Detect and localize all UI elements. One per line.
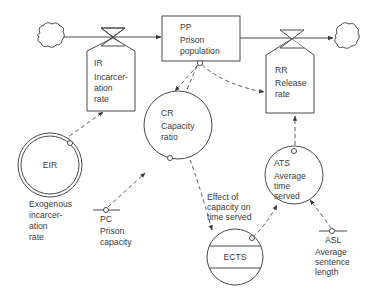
level-pp-label-2: population [180, 46, 220, 56]
rr-valve-icon [280, 30, 304, 48]
link-pp-to-cr [175, 65, 198, 91]
link-eir-to-ir [64, 112, 103, 140]
auxiliary-cr-label-1: Capacity [161, 121, 195, 131]
auxiliary-ats-label-2: time [274, 181, 290, 191]
source-cloud-icon [38, 23, 65, 48]
auxiliary-cr-label-2: ratio [161, 132, 178, 142]
rate-rr-label-1: Release [275, 78, 307, 88]
cr-pickoff-icon [168, 156, 173, 161]
flow-diagram: IR Incarcer- ation rate PP Prison popula… [0, 0, 374, 293]
auxiliary-ats-label-1: Average [274, 171, 306, 181]
rate-ir-abbr: IR [94, 58, 103, 68]
rate-rr[interactable]: RR Release rate [266, 39, 314, 113]
link-pc-to-cr [108, 173, 145, 207]
rate-ir-label-3: rate [94, 94, 109, 104]
rate-rr-label-2: rate [275, 89, 290, 99]
eir-caption-1: Exogenous [29, 199, 72, 209]
asl-pickoff-icon [330, 229, 335, 234]
auxiliary-cr[interactable]: CR Capacity ratio [144, 91, 212, 161]
constant-asl-caption-2: sentence [315, 257, 350, 267]
eir-pickoff-icon [68, 141, 73, 146]
constant-asl-caption-3: length [315, 267, 339, 277]
constant-pc-caption-1: Prison [100, 226, 125, 236]
constant-pc[interactable]: PC Prison capacity [93, 208, 132, 248]
pp-pickoff-icon [198, 61, 203, 66]
exogenous-eir-abbr: EIR [43, 160, 57, 170]
rate-rr-abbr: RR [275, 65, 287, 75]
constant-pc-caption-2: capacity [100, 237, 132, 247]
rate-ir-label-1: Incarcer- [94, 72, 128, 82]
auxiliary-ats-abbr: ATS [274, 158, 290, 168]
level-pp-abbr: PP [180, 22, 192, 32]
constant-pc-abbr: PC [100, 214, 112, 224]
eir-caption-2: incarcer- [29, 210, 63, 220]
link-asl-to-ats [310, 200, 331, 228]
ects-caption-3: time served [207, 212, 252, 222]
link-pp-to-rr [202, 65, 264, 92]
level-pp-label-1: Prison [180, 35, 205, 45]
exogenous-eir[interactable]: EIR [18, 133, 82, 197]
level-pp[interactable]: PP Prison population [162, 16, 240, 61]
ects-pickoff-icon [250, 236, 255, 241]
link-ects-to-ats [253, 205, 277, 237]
constant-asl[interactable]: ASL Average sentence length [315, 229, 350, 278]
ects-caption-1: Effect of [207, 192, 239, 202]
constant-asl-abbr: ASL [325, 235, 341, 245]
auxiliary-ects[interactable]: ECTS [207, 229, 263, 285]
ects-caption-2: capacity on [207, 202, 251, 212]
rate-ir-label-2: ation [94, 83, 113, 93]
eir-caption-3: ation [29, 221, 48, 231]
auxiliary-cr-abbr: CR [161, 108, 173, 118]
constant-asl-caption-1: Average [315, 247, 347, 257]
rate-ir[interactable]: IR Incarcer- ation rate [87, 38, 135, 111]
auxiliary-ats[interactable]: ATS Average time served [265, 146, 323, 204]
ats-pickoff-icon [292, 149, 297, 154]
eir-caption-4: rate [29, 232, 44, 242]
sink-cloud-icon [335, 23, 360, 49]
auxiliary-ects-abbr: ECTS [224, 252, 247, 262]
pc-pickoff-icon [104, 208, 109, 213]
auxiliary-ats-label-3: served [274, 191, 300, 201]
